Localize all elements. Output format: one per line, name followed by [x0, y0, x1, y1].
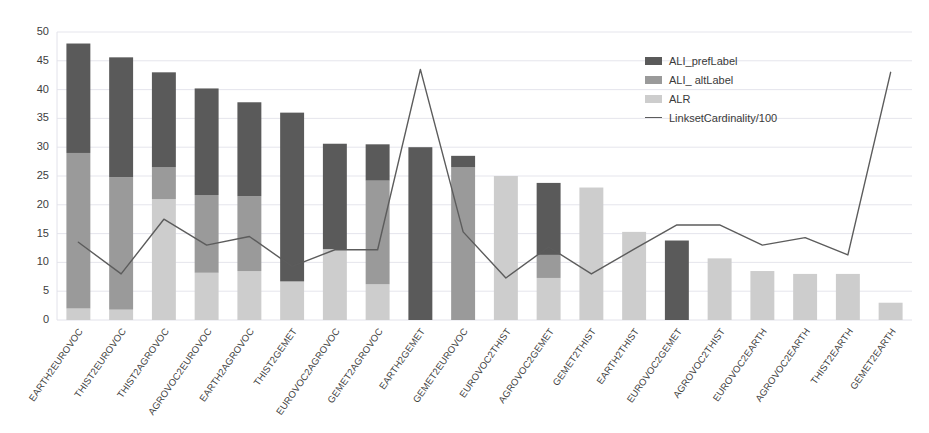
bar-segment [109, 310, 133, 320]
bar-segment [665, 241, 689, 320]
bar-segment [537, 255, 561, 278]
legend-item[interactable]: ALI_prefLabel [645, 52, 860, 69]
bar-segment [366, 284, 390, 320]
legend-item[interactable]: LinksetCardinality/100 [645, 109, 860, 126]
bar-segment [152, 72, 176, 167]
legend-item-label: ALR [669, 93, 690, 105]
y-axis-tick-label: 0 [23, 314, 49, 325]
legend-line-marker-icon [645, 117, 662, 118]
bar-segment [537, 183, 561, 255]
y-axis-tick-label: 15 [23, 228, 49, 239]
bar-segment [152, 199, 176, 320]
legend-color-swatch-icon [645, 57, 662, 65]
bar-segment [494, 176, 518, 320]
y-axis-tick-label: 30 [23, 141, 49, 152]
y-axis-tick-label: 45 [23, 55, 49, 66]
bar-segment [66, 153, 90, 309]
bar-segment [109, 177, 133, 309]
bar-segment [195, 273, 219, 320]
legend-item-label: LinksetCardinality/100 [669, 112, 777, 124]
bar-segment [195, 88, 219, 195]
bar-segment [66, 308, 90, 320]
legend-color-swatch-icon [645, 76, 662, 84]
bar-segment [323, 249, 347, 320]
bar-segment [451, 156, 475, 168]
bar-segment [280, 113, 304, 282]
bar-segment [879, 303, 903, 320]
legend-color-swatch-icon [645, 95, 662, 103]
bar-segment [237, 196, 261, 271]
legend-item[interactable]: ALI_ altLabel [645, 71, 860, 88]
y-axis-tick-label: 40 [23, 84, 49, 95]
bar-segment [451, 167, 475, 320]
legend-item-label: ALI_prefLabel [669, 55, 738, 67]
bar-segment [366, 181, 390, 285]
bar-segment [750, 271, 774, 320]
bar-segment [537, 278, 561, 320]
legend-item-label: ALI_ altLabel [669, 74, 733, 86]
bar-segment [237, 271, 261, 320]
y-axis-tick-label: 25 [23, 170, 49, 181]
bar-segment [109, 57, 133, 177]
y-axis-tick-label: 20 [23, 199, 49, 210]
y-axis-tick-label: 10 [23, 256, 49, 267]
y-axis-tick-label: 50 [23, 26, 49, 37]
bar-segment [579, 188, 603, 320]
bar-segment [793, 274, 817, 320]
bar-segment [152, 167, 176, 199]
y-axis-tick-label: 35 [23, 112, 49, 123]
bar-segment [708, 258, 732, 320]
bar-segment [237, 102, 261, 196]
bar-segment [195, 195, 219, 273]
chart-legend: ALI_prefLabelALI_ altLabelALRLinksetCard… [645, 52, 860, 128]
bar-segment [408, 147, 432, 320]
bar-segment [66, 44, 90, 153]
legend-item[interactable]: ALR [645, 90, 860, 107]
chart-container: ALI_prefLabelALI_ altLabelALRLinksetCard… [0, 0, 929, 433]
bar-segment [836, 274, 860, 320]
y-axis-tick-label: 5 [23, 285, 49, 296]
bar-segment [323, 144, 347, 249]
bar-segment [280, 281, 304, 320]
bar-segment [366, 144, 390, 180]
